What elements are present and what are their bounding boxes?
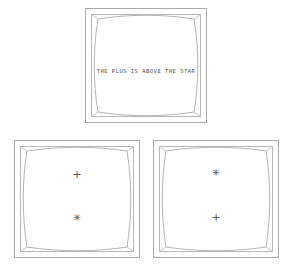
option-panel-right[interactable]: ✳ + <box>153 140 279 258</box>
star-icon: ✳ <box>209 166 223 180</box>
option-panel-left-frame <box>14 140 140 258</box>
instruction-text: THE PLUS IS ABOVE THE STAR <box>85 69 207 74</box>
screen-bowed-area <box>162 147 270 251</box>
instruction-panel: THE PLUS IS ABOVE THE STAR <box>85 8 207 123</box>
instruction-panel-frame <box>85 8 207 123</box>
screen-bowed-area <box>94 15 198 116</box>
plus-icon: + <box>70 168 84 182</box>
star-icon: ✳ <box>70 211 84 225</box>
screen-bowed-area <box>23 147 131 251</box>
option-panel-left[interactable]: + ✳ <box>14 140 140 258</box>
plus-icon: + <box>209 211 223 225</box>
puzzle-stage: THE PLUS IS ABOVE THE STAR + ✳ ✳ + <box>0 0 293 268</box>
option-panel-right-frame <box>153 140 279 258</box>
